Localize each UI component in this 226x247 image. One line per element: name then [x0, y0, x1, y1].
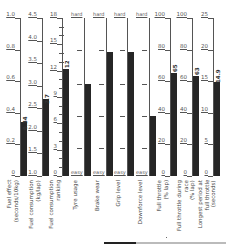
max-label: hard [93, 11, 104, 17]
tick [165, 113, 170, 114]
tick [165, 18, 170, 19]
tick-label: 15 [41, 37, 57, 43]
axis-title: Brake wear [94, 180, 101, 211]
min-label: easy [93, 169, 105, 175]
tick-label: 20 [149, 137, 165, 143]
metric-downforce-level: hard easy Downforce level [129, 0, 151, 247]
tick-label: 3.0 [21, 79, 37, 85]
tick-label: 10 [192, 106, 208, 112]
axis-title: Fuel effect (seconds/10kg) [6, 180, 19, 222]
tick-label: 3 [41, 143, 57, 149]
tick-label: 1.5 [21, 146, 37, 152]
max-label: hard [71, 11, 82, 17]
metric-full-throttle-during-race: 0 20 40 60 80 100 63 Full throttle durin… [172, 0, 194, 247]
axis-title: Tyre usage [72, 180, 79, 210]
tick-label: 6 [41, 116, 57, 122]
tick [15, 113, 20, 114]
tick [142, 84, 147, 85]
tick-label: 0.2 [0, 137, 15, 143]
max-label: hard [114, 11, 125, 17]
tick-label: 0.8 [0, 43, 15, 49]
metric-grip-level: hard easy Grip level [107, 0, 129, 247]
max-label: hard [136, 11, 147, 17]
tick [57, 97, 62, 98]
tick-label: 0.4 [0, 106, 15, 112]
tick-label: 0 [149, 169, 165, 175]
tick [15, 144, 20, 145]
tick-label: 15 [192, 74, 208, 80]
tick-label: 40 [149, 106, 165, 112]
tick [77, 116, 82, 117]
axis-title: Fuel consumption (kg/lap) [28, 180, 41, 229]
tick-label: 0 [171, 169, 187, 175]
tick [99, 116, 104, 117]
tick-label: 0 [0, 169, 15, 175]
tick-label: 1.0 [21, 169, 37, 175]
tick [142, 116, 147, 117]
tick-label: 20 [171, 137, 187, 143]
axis-title: Grip level [115, 180, 122, 206]
tick [165, 81, 170, 82]
tick-label: 25 [192, 11, 208, 17]
tick [15, 176, 20, 177]
tick-label: 80 [171, 43, 187, 49]
tick-label: 1.0 [0, 11, 15, 17]
tick [208, 113, 213, 114]
metric-fuel-consumption-ranking: 0 3 6 9 12 15 18 12 Fuel consumption ran… [42, 0, 64, 247]
tick-label: 80 [149, 43, 165, 49]
tick [165, 50, 170, 51]
min-label: easy [114, 169, 126, 175]
tick [187, 50, 192, 51]
metric-fuel-effect: 0 0.2 0.4 0.6 0.8 1.0 0.34 Fuel effect (… [0, 0, 22, 247]
metric-tyre-usage: hard easy Tyre usage [64, 0, 86, 247]
stray-dot [166, 237, 167, 238]
tick [187, 81, 192, 82]
tick [15, 81, 20, 82]
tick [120, 148, 125, 149]
tick-label: 12 [41, 64, 57, 70]
tick-label: 2.0 [21, 124, 37, 130]
tick [15, 50, 20, 51]
min-label: easy [71, 169, 83, 175]
metric-full-throttle: 0 20 40 60 80 100 65 Full throttle (% la… [150, 0, 172, 247]
axis-title: Full throttle (% lap) [156, 180, 169, 212]
axis-title: Fuel consumption ranking [48, 180, 61, 229]
tick [120, 50, 125, 51]
tick [57, 123, 62, 124]
tick-label: 100 [149, 11, 165, 17]
tick [77, 84, 82, 85]
tick [120, 116, 125, 117]
tick [165, 176, 170, 177]
tick [142, 148, 147, 149]
tick [57, 71, 62, 72]
tick [99, 148, 104, 149]
tick-label: 18 [41, 11, 57, 17]
tick [57, 176, 62, 177]
tick [165, 144, 170, 145]
tick-label: 60 [149, 74, 165, 80]
metric-brake-wear: hard easy Brake wear [86, 0, 108, 247]
tick [15, 18, 20, 19]
tick [57, 150, 62, 151]
tick [208, 176, 213, 177]
tick [208, 18, 213, 19]
tick [208, 81, 213, 82]
tick [187, 18, 192, 19]
tick-label: 4.5 [21, 11, 37, 17]
bottom-scroll-strip [104, 242, 226, 244]
tick [187, 113, 192, 114]
tick [57, 18, 62, 19]
tick [208, 50, 213, 51]
min-label: easy [136, 169, 148, 175]
tick [208, 144, 213, 145]
tick-label: 3.5 [21, 56, 37, 62]
tick-label: 2.5 [21, 101, 37, 107]
tick-label: 40 [171, 106, 187, 112]
tick-label: 0 [41, 169, 57, 175]
tick [77, 148, 82, 149]
tick [120, 84, 125, 85]
tick [99, 84, 104, 85]
tick [142, 50, 147, 51]
tick [187, 176, 192, 177]
value-bar [214, 82, 220, 176]
